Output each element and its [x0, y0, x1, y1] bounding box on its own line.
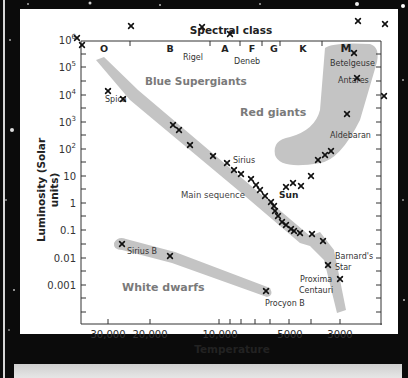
star-marker-x-icon: [291, 181, 296, 186]
star-marker-x-icon: [106, 89, 111, 94]
label-sirius-b: Sirius B: [127, 247, 157, 256]
label-main-sequence: Main sequence: [181, 190, 245, 200]
x-ticks: [108, 319, 340, 324]
class-a: A: [221, 43, 229, 54]
xtick-20000: 20,000: [133, 329, 168, 340]
x-tick-labels: 30,000 20,000 10,000 5000 3000: [91, 329, 353, 340]
star-marker-x-icon: [299, 184, 304, 189]
y-axis-label: Luminosity (Solar units): [35, 137, 60, 242]
xtick-30000: 30,000: [91, 329, 126, 340]
class-f: F: [249, 43, 256, 54]
star-marker-x-icon: [249, 177, 254, 182]
ytick-1e6: 106: [59, 33, 77, 46]
ytick-0.01: 0.01: [54, 253, 76, 264]
star-marker-x-icon: [309, 174, 314, 179]
ytick-1: 1: [70, 198, 76, 209]
star-marker-x-icon: [263, 194, 268, 199]
label-proxima-centauri-line1: Proxima: [300, 275, 332, 284]
star-marker-x-icon: [284, 185, 289, 190]
label-sirius: Sirius: [233, 156, 255, 165]
hr-diagram: Spectral class O B A F G K M 106 105 104…: [0, 0, 408, 378]
ytick-1e5: 105: [59, 60, 76, 73]
class-g: G: [270, 43, 278, 54]
label-procyon-b: Procyon B: [265, 299, 305, 308]
label-proxima-centauri-line2: Centauri: [299, 286, 333, 295]
label-aldebaran: Aldebaran: [330, 131, 371, 140]
ytick-10: 10: [63, 171, 76, 182]
ytick-1e4: 104: [59, 88, 77, 101]
xtick-5000: 5000: [277, 329, 302, 340]
star-marker-x-icon: [129, 24, 134, 29]
y-axis-label-line2: units): [48, 173, 60, 208]
star-marker-x-icon: [225, 161, 230, 166]
label-white-dwarfs: White dwarfs: [122, 281, 205, 294]
spectral-class-labels: O B A F G K M: [100, 42, 352, 55]
star-marker-x-icon: [382, 94, 387, 99]
label-barnards-star-line2: Star: [335, 263, 352, 272]
label-deneb: Deneb: [234, 57, 260, 66]
label-red-giants: Red giants: [240, 106, 307, 119]
class-k: K: [299, 43, 307, 54]
label-sun: Sun: [279, 190, 298, 200]
y-tick-labels: 106 105 104 103 102 10 1 0.1 0.01 0.001: [47, 33, 76, 291]
ytick-0.1: 0.1: [60, 225, 76, 236]
ytick-1e2: 102: [59, 142, 76, 155]
class-m: M: [341, 42, 352, 55]
x-axis-label: Temperature: [194, 343, 270, 355]
label-betelgeuse: Betelgeuse: [330, 59, 375, 68]
star-marker-x-icon: [383, 22, 388, 27]
star-marker-x-icon: [356, 19, 361, 24]
xtick-3000: 3000: [327, 329, 352, 340]
star-marker-x-icon: [258, 188, 263, 193]
label-antares: Antares: [338, 76, 369, 85]
y-axis-label-line1: Luminosity (Solar: [35, 137, 47, 242]
label-barnards-star-line1: Barnard's: [335, 252, 373, 261]
star-marker-x-icon: [254, 183, 259, 188]
class-o: O: [100, 43, 108, 54]
star-marker-x-icon: [239, 172, 244, 177]
ytick-1e3: 103: [59, 115, 76, 128]
xtick-10000: 10,000: [203, 329, 238, 340]
label-rigel: Rigel: [183, 53, 203, 62]
class-b: B: [166, 43, 173, 54]
star-marker-x-icon: [80, 43, 85, 48]
label-blue-supergiants: Blue Supergiants: [145, 75, 247, 87]
ytick-0.001: 0.001: [47, 280, 76, 291]
